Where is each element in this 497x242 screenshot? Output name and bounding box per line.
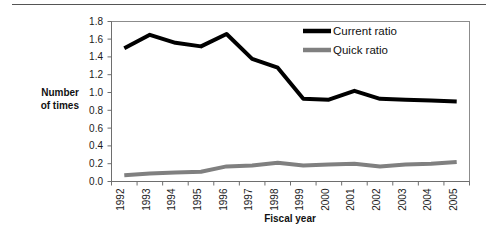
xtick-label: 2003 [397,188,408,211]
x-axis-ticks [112,182,470,186]
xtick-label: 2002 [371,188,382,211]
x-axis: 1992199319941995199619971998199920002001… [112,182,470,211]
ytick-label: 0.2 [89,158,103,169]
y-axis-title-line1: Number [41,87,79,98]
xtick-label: 1996 [218,188,229,211]
y-axis: 0.0 0.2 0.4 0.6 0.8 1.0 1.2 1.4 1.6 1.8 [89,16,111,187]
xtick-label: 2000 [320,188,331,211]
xtick-label: 2001 [345,188,356,211]
legend-label-quick-ratio: Quick ratio [333,44,388,56]
xtick-label: 1992 [115,188,126,211]
y-axis-ticks [108,22,112,182]
x-axis-title: Fiscal year [264,213,316,224]
xtick-label: 2005 [448,188,459,211]
ytick-label: 0.6 [89,123,103,134]
legend-label-current-ratio: Current ratio [333,25,397,37]
xtick-label: 1997 [243,188,254,211]
ytick-label: 1.2 [89,69,103,80]
xtick-label: 2004 [422,188,433,211]
xtick-label: 1995 [192,188,203,211]
ytick-label: 1.6 [89,34,103,45]
ytick-label: 0.0 [89,176,103,187]
y-axis-tick-labels: 0.0 0.2 0.4 0.6 0.8 1.0 1.2 1.4 1.6 1.8 [89,16,103,187]
chart-figure: 0.0 0.2 0.4 0.6 0.8 1.0 1.2 1.4 1.6 1.8 … [0,0,497,242]
ytick-label: 1.0 [89,87,103,98]
x-axis-tick-labels: 1992199319941995199619971998199920002001… [115,188,458,211]
xtick-label: 1999 [294,188,305,211]
xtick-label: 1993 [141,188,152,211]
ytick-label: 1.8 [89,16,103,27]
ytick-label: 0.8 [89,105,103,116]
ytick-label: 0.4 [89,140,103,151]
y-axis-title-line2: of times [41,100,80,111]
line-chart: 0.0 0.2 0.4 0.6 0.8 1.0 1.2 1.4 1.6 1.8 … [0,0,497,242]
y-axis-title: Number of times [41,87,80,111]
ytick-label: 1.4 [89,51,103,62]
xtick-label: 1994 [166,188,177,211]
xtick-label: 1998 [269,188,280,211]
